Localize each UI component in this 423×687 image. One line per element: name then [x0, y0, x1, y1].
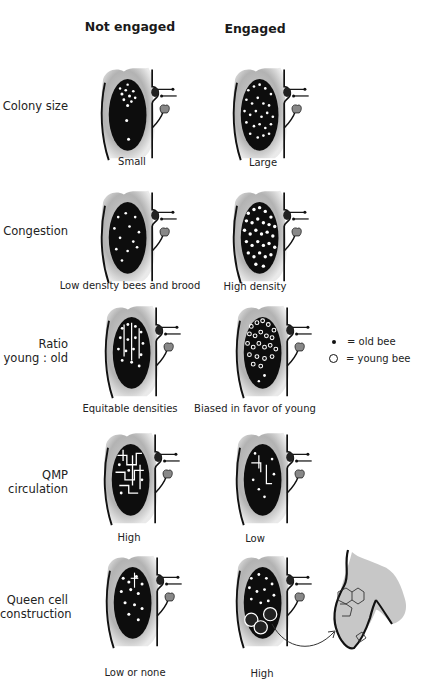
legend-young-bee: = young bee [329, 353, 410, 364]
row-label-congestion: Congestion [0, 224, 68, 238]
row-label-line: Ratio [0, 337, 68, 351]
hive-illustration-biased-young [228, 300, 318, 400]
hive-illustration-large-colony [225, 62, 315, 162]
legend: = old bee = young bee [329, 336, 410, 364]
header-not-engaged: Not engaged [70, 19, 190, 34]
legend-old-bee: = old bee [329, 336, 410, 347]
curved-arrow-icon [270, 620, 340, 660]
caption-high-queen-cells: High [187, 668, 337, 679]
hive-illustration-small-colony [93, 62, 183, 162]
hive-illustration-no-queen-cells [98, 550, 188, 650]
hive-illustration-high-qmp [96, 427, 186, 527]
caption-large: Large [188, 157, 338, 168]
hive-illustration-high-density [225, 185, 315, 285]
caption-high-density: High density [180, 281, 330, 292]
row-label-queen-cell: Queen cell construction [0, 593, 68, 621]
row-label-line: Queen cell [0, 593, 68, 607]
hive-illustration-low-qmp [228, 427, 318, 527]
open-circle-icon [329, 354, 338, 363]
row-label-ratio: Ratio young : old [0, 337, 68, 365]
row-label-colony-size: Colony size [0, 99, 68, 113]
legend-old-bee-label: = old bee [347, 336, 396, 347]
caption-biased-young: Biased in favor of young [180, 403, 330, 414]
hive-illustration-low-density [93, 185, 183, 285]
row-label-line: circulation [0, 482, 68, 496]
hive-illustration-equitable [97, 300, 187, 400]
row-label-line: QMP [0, 468, 68, 482]
filled-dot-icon [332, 340, 336, 344]
row-label-line: construction [0, 607, 68, 621]
header-engaged: Engaged [195, 21, 315, 36]
row-label-line: young : old [0, 351, 68, 365]
caption-small: Small [57, 156, 207, 167]
legend-young-bee-label: = young bee [346, 353, 410, 364]
caption-low-qmp: Low [180, 533, 330, 544]
row-label-qmp: QMP circulation [0, 468, 68, 496]
queen-cell-detail [330, 548, 420, 663]
